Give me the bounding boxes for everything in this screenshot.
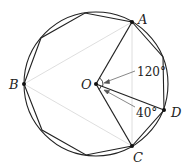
chord-BC <box>24 84 132 146</box>
point-C <box>130 144 134 148</box>
label-B: B <box>8 77 19 92</box>
leader-120 <box>106 71 135 82</box>
point-O <box>94 82 98 86</box>
angle-arc-40 <box>99 86 101 90</box>
point-A <box>130 20 134 24</box>
label-angle-40: 40° <box>136 106 157 120</box>
label-A: A <box>137 12 147 27</box>
radius-OC <box>96 84 132 146</box>
chord-BA <box>24 22 132 84</box>
label-O: O <box>81 77 92 92</box>
point-B <box>22 82 26 86</box>
geometry-diagram: A B C D O 120° 40° <box>0 0 196 166</box>
label-angle-120: 120° <box>137 65 166 79</box>
arrowhead-40 <box>104 90 110 94</box>
points <box>22 20 166 148</box>
label-D: D <box>170 105 182 120</box>
label-C: C <box>133 150 143 165</box>
point-D <box>162 108 166 112</box>
arrowhead-120 <box>104 80 110 84</box>
radius-OA <box>96 22 132 84</box>
